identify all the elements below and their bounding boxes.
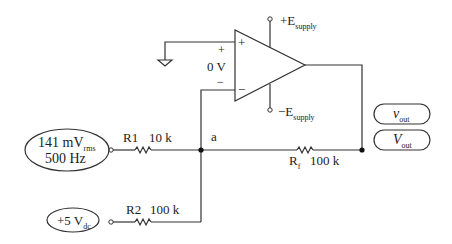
inverting-input-wire: [201, 90, 235, 222]
output-dc-label: Vout: [393, 132, 413, 150]
r1-value: 10 k: [149, 130, 172, 145]
supply-pos-terminal: [268, 17, 272, 21]
r2-resistor-icon: [135, 219, 151, 225]
dc-source-label: +5 Vdc: [57, 213, 91, 231]
input-plus-label: +: [218, 43, 225, 57]
r2-value: 100 k: [150, 202, 180, 217]
rf-value: 100 k: [310, 153, 340, 168]
output-ac-label: vout: [393, 106, 410, 124]
supply-neg-terminal: [268, 108, 272, 112]
dc-source-terminal: [109, 220, 113, 224]
circuit-diagram: + − +Esupply −Esupply + 0 V − a R1 10 k …: [0, 0, 452, 244]
r1-resistor-icon: [135, 147, 151, 153]
opamp-minus-terminal: −: [238, 82, 245, 97]
rf-name: Rf: [289, 153, 301, 171]
input-minus-label: −: [217, 75, 224, 89]
ac-source-frequency: 500 Hz: [45, 151, 86, 166]
node-a-label: a: [211, 129, 217, 144]
node-a-dot: [198, 147, 203, 152]
output-node-dot: [359, 147, 364, 152]
input-voltage-label: 0 V: [207, 59, 227, 74]
opamp-plus-terminal: +: [238, 35, 245, 50]
r2-name: R2: [126, 202, 141, 217]
ground-icon: [158, 60, 172, 66]
supply-neg-label: −Esupply: [278, 104, 315, 122]
output-wire: [305, 65, 362, 150]
supply-pos-label: +Esupply: [280, 13, 317, 31]
r1-name: R1: [123, 130, 138, 145]
